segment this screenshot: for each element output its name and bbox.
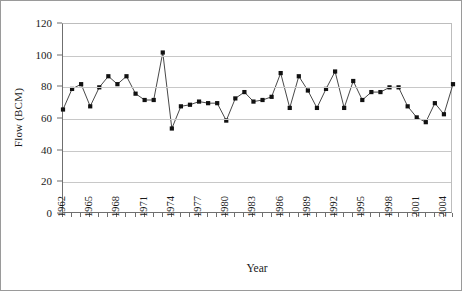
data-point-marker (161, 50, 165, 54)
x-axis-tick-label: 2001 (410, 196, 421, 217)
data-point-marker (442, 112, 446, 116)
x-axis-tick-label: 1977 (193, 196, 204, 217)
data-point-marker (279, 71, 283, 75)
data-point-marker (233, 96, 237, 100)
data-point-marker (451, 82, 455, 86)
data-point-marker (61, 107, 65, 111)
data-point-marker (188, 103, 192, 107)
y-axis-tick-label: 80 (41, 81, 52, 92)
data-point-marker (215, 101, 219, 105)
y-axis-tick-label: 0 (47, 208, 53, 219)
x-axis-tick-labels: 1962196519681971197419771980198319861989… (62, 217, 452, 261)
data-point-marker (124, 74, 128, 78)
x-axis-tick-label: 1980 (220, 196, 231, 217)
data-point-marker (152, 98, 156, 102)
data-point-marker (170, 126, 174, 130)
data-point-marker (106, 74, 110, 78)
y-axis-tick-label: 100 (36, 49, 53, 60)
y-axis-tick-label: 120 (36, 18, 53, 29)
gridline (63, 182, 451, 183)
data-point-marker (297, 74, 301, 78)
data-point-marker (143, 98, 147, 102)
data-point-marker (342, 106, 346, 110)
data-point-marker (406, 104, 410, 108)
data-point-marker (115, 82, 119, 86)
x-axis-tick-label: 1992 (329, 196, 340, 217)
x-axis-tick-label: 1971 (138, 196, 149, 217)
y-axis-tick-labels: 020406080100120 (1, 23, 58, 213)
data-point-marker (179, 104, 183, 108)
data-point-marker (88, 104, 92, 108)
data-point-marker (288, 106, 292, 110)
y-axis-tick-label: 60 (41, 113, 52, 124)
data-point-marker (424, 120, 428, 124)
plot-area (62, 23, 452, 213)
data-point-marker (206, 101, 210, 105)
x-axis-tick-label: 1986 (274, 196, 285, 217)
data-point-marker (315, 106, 319, 110)
data-point-marker (260, 98, 264, 102)
x-axis-tick-label: 1974 (166, 196, 177, 217)
x-axis-title: Year (62, 262, 452, 274)
chart-figure: Flow (BCM) 020406080100120 1962196519681… (0, 0, 462, 291)
data-point-marker (378, 90, 382, 94)
x-axis-tick-label: 1995 (356, 196, 367, 217)
gridline (63, 151, 451, 152)
data-point-marker (270, 95, 274, 99)
data-point-marker (251, 99, 255, 103)
x-axis-tick-label: 1989 (302, 196, 313, 217)
x-axis-tick-label: 1983 (247, 196, 258, 217)
data-point-marker (242, 90, 246, 94)
x-axis-tick-label: 1968 (111, 196, 122, 217)
y-axis-tick-label: 40 (41, 144, 52, 155)
gridline (63, 87, 451, 88)
series-line-flow (63, 53, 453, 129)
gridline (63, 56, 451, 57)
x-axis-tick-label: 2004 (438, 196, 449, 217)
data-point-marker (133, 92, 137, 96)
y-axis-tick-label: 20 (41, 176, 52, 187)
data-point-marker (197, 99, 201, 103)
data-point-marker (369, 90, 373, 94)
data-point-marker (79, 82, 83, 86)
x-axis-tick-label: 1965 (84, 196, 95, 217)
data-point-marker (306, 88, 310, 92)
data-point-marker (433, 101, 437, 105)
data-point-marker (360, 98, 364, 102)
data-point-marker (351, 79, 355, 83)
data-point-marker (333, 69, 337, 73)
x-axis-tick-label: 1998 (383, 196, 394, 217)
x-axis-tick-mark (452, 213, 453, 217)
x-axis-tick-label: 1962 (57, 196, 68, 217)
gridline (63, 119, 451, 120)
